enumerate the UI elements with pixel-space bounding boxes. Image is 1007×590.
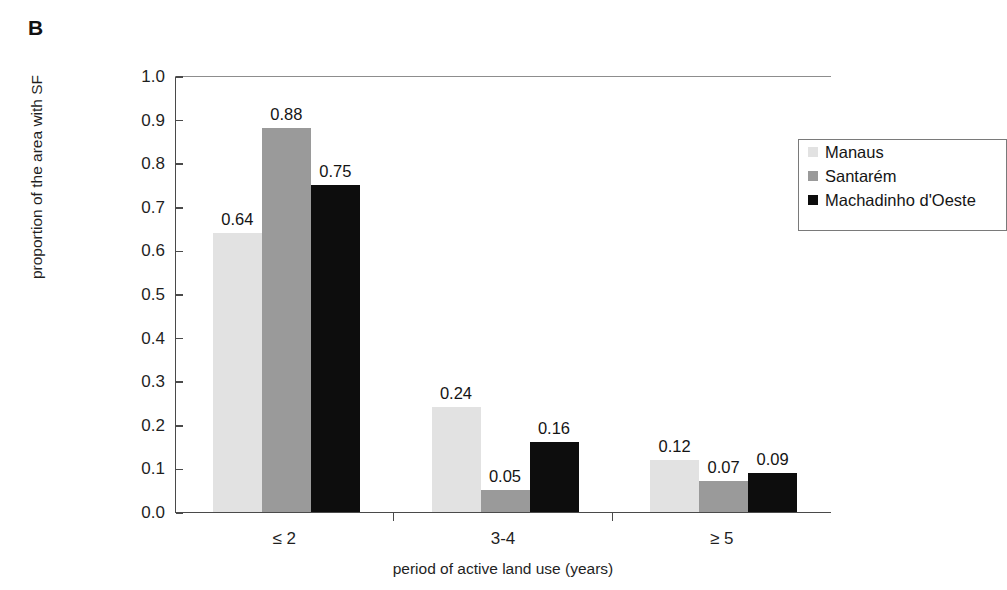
y-axis-tick	[176, 425, 183, 427]
bar-value-label: 0.24	[440, 384, 472, 403]
y-axis-tick	[176, 338, 183, 340]
bar	[262, 128, 311, 512]
bar-value-label: 0.64	[221, 210, 253, 229]
y-axis-tick	[176, 76, 183, 78]
bar-value-label: 0.07	[708, 458, 740, 477]
bar-value-label: 0.09	[757, 450, 789, 469]
bar-value-label: 0.16	[538, 419, 570, 438]
y-axis-tick-label: 0.5	[141, 285, 165, 305]
bar	[748, 473, 797, 512]
bar	[311, 185, 360, 512]
x-axis-ticks	[175, 513, 831, 523]
legend-item: Santarém	[808, 164, 1006, 188]
y-axis-tick-label: 0.9	[141, 111, 165, 131]
y-axis-title: proportion of the area with SF	[28, 27, 46, 327]
y-axis-tick-label: 0.8	[141, 154, 165, 174]
x-axis-title: period of active land use (years)	[175, 560, 831, 578]
legend-label: Santarém	[825, 168, 897, 185]
bar	[432, 407, 481, 512]
y-axis-tick-label: 0.0	[141, 503, 165, 523]
y-axis-tick-label: 0.1	[141, 459, 165, 479]
bar-value-label: 0.88	[270, 105, 302, 124]
y-axis-tick	[176, 294, 183, 296]
bar	[530, 442, 579, 512]
y-axis-tick-label: 0.4	[141, 329, 165, 349]
y-axis-tick-label: 1.0	[141, 67, 165, 87]
bar	[699, 481, 748, 512]
bar	[650, 460, 699, 512]
bar	[481, 490, 530, 512]
bar-value-label: 0.05	[489, 467, 521, 486]
legend-swatch-icon	[808, 147, 818, 157]
bar	[213, 233, 262, 512]
x-axis-tick	[393, 513, 395, 521]
y-axis-tick	[176, 381, 183, 383]
y-axis-tick-labels: 0.00.10.20.30.40.50.60.70.80.91.0	[113, 77, 165, 513]
x-axis-category-label: ≤ 2	[273, 529, 297, 549]
x-axis-category-label: ≥ 5	[710, 529, 734, 549]
y-axis-tick	[176, 163, 183, 165]
legend: ManausSantarémMachadinho d'Oeste	[798, 139, 1007, 231]
y-axis-tick	[176, 251, 183, 253]
x-axis-category-label: 3-4	[491, 529, 516, 549]
y-axis-tick	[176, 207, 183, 209]
legend-swatch-icon	[808, 171, 818, 181]
y-axis-tick	[176, 469, 183, 471]
legend-item: Machadinho d'Oeste	[808, 188, 1006, 212]
x-axis-category-labels: ≤ 23-4≥ 5	[175, 529, 831, 555]
bar-value-label: 0.12	[659, 437, 691, 456]
legend-item: Manaus	[808, 140, 1006, 164]
y-axis-tick-label: 0.3	[141, 372, 165, 392]
y-axis-tick	[176, 120, 183, 122]
bar-value-label: 0.75	[319, 162, 351, 181]
y-axis-tick-label: 0.2	[141, 416, 165, 436]
x-axis-tick	[612, 513, 614, 521]
plot-area: ManausSantarémMachadinho d'Oeste 0.640.8…	[175, 77, 831, 513]
legend-label: Machadinho d'Oeste	[825, 192, 976, 209]
y-axis-tick-label: 0.7	[141, 198, 165, 218]
legend-swatch-icon	[808, 195, 818, 205]
y-axis-tick-label: 0.6	[141, 241, 165, 261]
legend-label: Manaus	[825, 144, 884, 161]
